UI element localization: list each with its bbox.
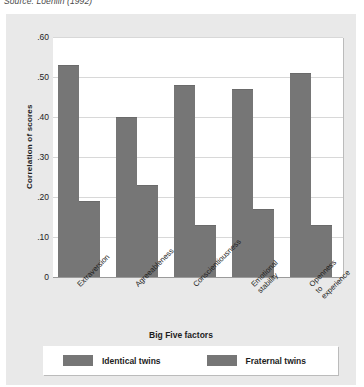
legend-item: Identical twins — [63, 355, 161, 366]
plot-area — [53, 37, 343, 277]
legend-label: Identical twins — [102, 356, 161, 366]
legend-label: Fraternal twins — [246, 356, 306, 366]
legend-swatch — [207, 355, 237, 366]
y-tick-label: .20 — [11, 192, 49, 202]
source-caption: Source: Loehlin (1992) — [4, 0, 92, 6]
legend-item: Fraternal twins — [207, 355, 306, 366]
y-tick-label: .30 — [11, 152, 49, 162]
y-tick-label: .40 — [11, 112, 49, 122]
y-tick-label: .60 — [11, 32, 49, 42]
gridline — [53, 237, 343, 238]
gridline — [53, 157, 343, 158]
gridline — [53, 117, 343, 118]
gridline — [53, 77, 343, 78]
legend-swatch — [63, 355, 93, 366]
y-tick-label: .10 — [11, 232, 49, 242]
figure-panel: Correlation of scores 0.10.20.30.40.50.6… — [6, 14, 356, 385]
y-tick-label: 0 — [11, 272, 49, 282]
gridline — [53, 37, 343, 38]
gridline — [53, 197, 343, 198]
chart-legend: Identical twinsFraternal twins — [43, 346, 338, 375]
x-axis-title: Big Five factors — [6, 330, 356, 340]
y-tick-label: .50 — [11, 72, 49, 82]
